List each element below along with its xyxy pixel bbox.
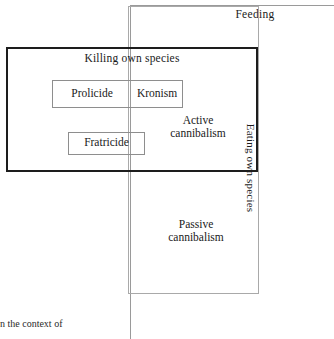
- active-cannibalism-line2: cannibalism: [170, 127, 226, 139]
- active-cannibalism-label: Active cannibalism: [158, 114, 238, 140]
- killing-own-species-label: Killing own species: [16, 52, 248, 64]
- fratricide-label: Fratricide: [68, 136, 145, 148]
- passive-cannibalism-line2: cannibalism: [168, 231, 224, 243]
- venn-diagram-canvas: Feeding Eating own species Passive canni…: [0, 0, 334, 339]
- figure-caption-fragment: n the context of: [0, 318, 62, 329]
- passive-cannibalism-label: Passive cannibalism: [156, 218, 236, 244]
- prolicide-label: Prolicide: [56, 87, 128, 99]
- active-cannibalism-line1: Active: [183, 114, 214, 126]
- kronism-label: Kronism: [132, 87, 182, 99]
- passive-cannibalism-line1: Passive: [179, 218, 214, 230]
